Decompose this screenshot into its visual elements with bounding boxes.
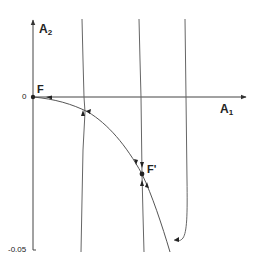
fixed-point-F <box>31 95 35 99</box>
point-label-F: F <box>37 84 44 95</box>
hook-trajectory <box>174 19 187 241</box>
phase-portrait <box>0 0 258 268</box>
vertical-trajectory-2 <box>139 19 144 252</box>
arrow-down-v2-icon <box>140 162 144 168</box>
y-tick-zero-label: 0 <box>22 93 26 101</box>
arrow-up-v1-icon <box>81 110 85 116</box>
x-axis-label: A1 <box>220 103 233 117</box>
vertical-trajectory-1 <box>81 19 85 252</box>
point-label-F-prime: F' <box>147 164 156 175</box>
y-tick-bottom-label: -0.05 <box>8 246 26 254</box>
fixed-point-F-prime <box>140 172 145 177</box>
arrow-up-v2-icon <box>140 180 144 186</box>
y-axis-label: A2 <box>39 23 52 37</box>
